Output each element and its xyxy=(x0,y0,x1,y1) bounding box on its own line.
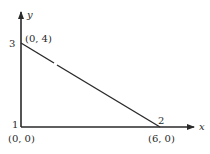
vertex-1-coord: (0, 0) xyxy=(8,133,35,144)
vertex-3-coord: (0, 4) xyxy=(25,33,52,44)
line-segment xyxy=(21,43,54,63)
vertex-3-number: 3 xyxy=(9,38,15,49)
vertex-1-number: 1 xyxy=(12,119,18,130)
y-axis-label: y xyxy=(26,9,33,20)
x-axis-label: x xyxy=(199,121,205,132)
vertex-2-coord: (6, 0) xyxy=(148,133,175,144)
coordinate-diagram: y x 3 (0, 4) 1 (0, 0) 2 (6, 0) xyxy=(0,0,210,154)
vertex-2-number: 2 xyxy=(158,115,164,126)
line-segment xyxy=(57,65,160,127)
